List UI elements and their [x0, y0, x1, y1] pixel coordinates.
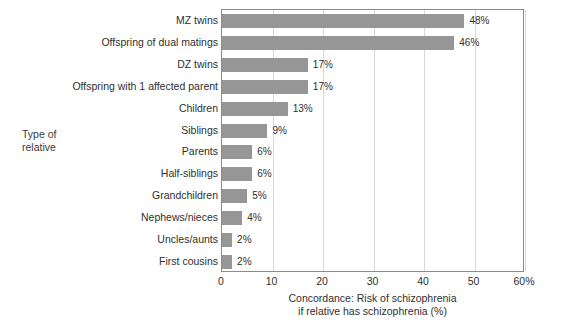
bar-value-label: 6%: [257, 145, 271, 159]
category-label: First cousins: [10, 256, 218, 267]
bar: [222, 211, 242, 225]
x-tick-label: 50: [468, 275, 480, 288]
x-axis-tick-labels: 0102030405060%: [221, 275, 524, 291]
bar: [222, 189, 247, 203]
x-tick-label: 0: [218, 275, 224, 288]
bar: [222, 145, 252, 159]
category-label: Nephews/nieces: [10, 212, 218, 223]
category-label: Children: [10, 103, 218, 114]
x-tick-label: 10: [266, 275, 278, 288]
category-label: MZ twins: [10, 15, 218, 26]
category-label: Siblings: [10, 125, 218, 136]
bar-value-label: 6%: [257, 167, 271, 181]
x-tick-label: 20: [316, 275, 328, 288]
category-label: Offspring of dual matings: [10, 37, 218, 48]
bar: [222, 14, 464, 28]
category-label: Offspring with 1 affected parent: [10, 81, 218, 92]
x-tick-label: 30: [367, 275, 379, 288]
bar-value-label: 2%: [237, 255, 251, 269]
bar-value-label: 9%: [272, 124, 286, 138]
category-label: Parents: [10, 146, 218, 157]
bar: [222, 124, 267, 138]
category-label: DZ twins: [10, 59, 218, 70]
bar-value-label: 5%: [252, 189, 266, 203]
x-tick-label: 60%: [513, 275, 534, 288]
bar: [222, 167, 252, 181]
bar-value-label: 4%: [247, 211, 261, 225]
bar: [222, 80, 308, 94]
plot-area: 48%46%17%17%13%9%6%6%5%4%2%2%: [221, 9, 524, 272]
bar-value-label: 46%: [459, 36, 479, 50]
x-axis-title: Concordance: Risk of schizophrenia if re…: [221, 292, 524, 318]
schizophrenia-concordance-bar-chart: Type of relative MZ twinsOffspring of du…: [0, 0, 569, 331]
bar: [222, 233, 232, 247]
bar: [222, 58, 308, 72]
category-label-column: MZ twinsOffspring of dual matingsDZ twin…: [10, 9, 218, 272]
category-label: Half-siblings: [10, 168, 218, 179]
bar: [222, 36, 454, 50]
bar-value-label: 13%: [293, 102, 313, 116]
bar-value-label: 2%: [237, 233, 251, 247]
bar: [222, 255, 232, 269]
bar: [222, 102, 288, 116]
bar-value-label: 48%: [469, 14, 489, 28]
x-tick-label: 40: [417, 275, 429, 288]
bar-value-label: 17%: [313, 58, 333, 72]
category-label: Grandchildren: [10, 190, 218, 201]
bar-value-label: 17%: [313, 80, 333, 94]
category-label: Uncles/aunts: [10, 234, 218, 245]
gridline: [525, 10, 526, 271]
